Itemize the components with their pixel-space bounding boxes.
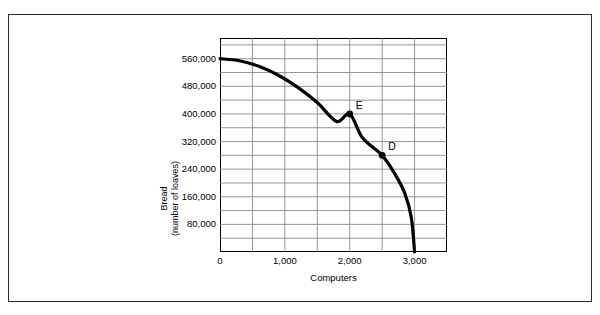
x-tick-label: 2,000 xyxy=(338,256,362,266)
y-tick-label: 160,000 xyxy=(182,192,216,202)
y-tick-label: 240,000 xyxy=(182,164,216,174)
x-tick-label: 0 xyxy=(217,256,222,266)
x-axis-tick-labels: 01,0002,0003,000 xyxy=(220,256,447,272)
point-label-d: D xyxy=(388,141,396,152)
y-axis-tick-labels: 80,000160,000240,000320,000400,000480,00… xyxy=(150,0,216,315)
y-tick-label: 320,000 xyxy=(182,137,216,147)
y-tick-label: 400,000 xyxy=(182,109,216,119)
plot-graphics xyxy=(220,38,447,252)
horizontal-gridlines xyxy=(220,45,447,238)
y-tick-label: 480,000 xyxy=(182,81,216,91)
x-tick-label: 1,000 xyxy=(273,256,297,266)
y-tick-label: 80,000 xyxy=(187,219,216,229)
x-axis-title: Computers xyxy=(220,272,447,283)
data-point-e xyxy=(346,111,353,118)
x-tick-label: 3,000 xyxy=(403,256,427,266)
y-tick-label: 560,000 xyxy=(182,54,216,64)
chart: Bread (number of loaves) 80,000160,00024… xyxy=(0,0,600,315)
data-point-d xyxy=(379,152,386,159)
point-label-e: E xyxy=(356,100,363,111)
